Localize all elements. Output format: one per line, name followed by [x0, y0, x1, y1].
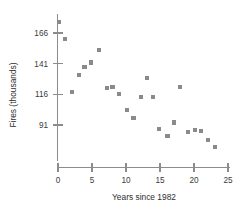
x-axis-tick-label: 15 — [155, 176, 165, 185]
scatter-plot: 91116141166 0510152025 Years since 1982 … — [0, 0, 240, 209]
data-point — [206, 138, 210, 142]
y-axis-tick-labels: 91116141166 — [34, 29, 48, 130]
data-point — [213, 145, 217, 149]
data-point — [157, 127, 161, 131]
data-point — [77, 73, 81, 77]
x-axis-tick-labels: 0510152025 — [56, 176, 233, 185]
data-point — [172, 120, 176, 124]
chart-screenshot: 91116141166 0510152025 Years since 1982 … — [0, 0, 240, 209]
x-axis-tick-label: 5 — [90, 176, 95, 185]
y-axis-tick-label: 141 — [34, 60, 48, 69]
y-axis-tick-label: 91 — [39, 121, 49, 130]
data-point — [110, 85, 114, 89]
data-point — [97, 48, 101, 52]
data-point — [57, 20, 61, 24]
x-axis-tick-label: 20 — [189, 176, 199, 185]
data-point — [63, 37, 67, 41]
data-point — [165, 134, 169, 138]
data-point — [131, 116, 135, 120]
data-point — [70, 90, 74, 94]
y-axis-group: 91116141166 — [34, 14, 62, 161]
data-point — [193, 128, 197, 132]
y-axis-tick-label: 166 — [34, 29, 48, 38]
data-point — [199, 129, 203, 133]
data-point — [186, 130, 190, 134]
x-axis-tick-label: 25 — [223, 176, 233, 185]
data-point — [89, 60, 93, 64]
x-axis-tick-label: 0 — [56, 176, 61, 185]
x-axis-group: 0510152025 — [56, 163, 233, 185]
data-markers — [57, 20, 217, 149]
data-point — [117, 92, 121, 96]
y-axis-title: Fires (thousands) — [8, 62, 18, 127]
data-point — [82, 65, 86, 69]
data-point — [105, 86, 109, 90]
data-point — [145, 76, 149, 80]
data-point — [151, 95, 155, 99]
y-axis-tick-label: 116 — [35, 90, 48, 99]
data-point — [139, 95, 143, 99]
x-axis-tick-label: 10 — [121, 176, 131, 185]
data-point — [125, 108, 129, 112]
x-axis-title: Years since 1982 — [112, 192, 176, 202]
data-point — [178, 85, 182, 89]
